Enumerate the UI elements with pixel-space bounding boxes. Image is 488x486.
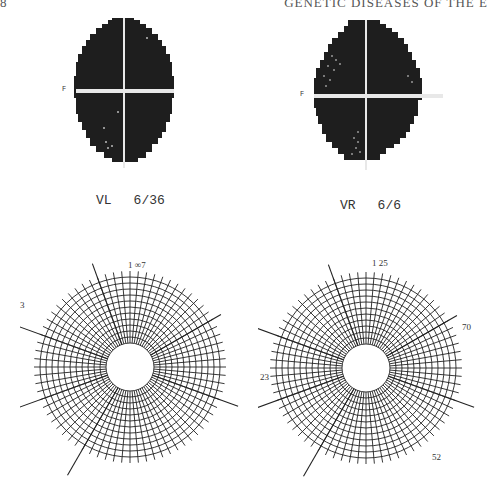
- svg-text:F: F: [300, 90, 304, 98]
- running-title: GENETIC DISEASES OF THE E: [284, 0, 488, 11]
- svg-text:F: F: [62, 85, 66, 93]
- right-polar-label-left: 23: [260, 372, 269, 382]
- left-polar-chart: [20, 255, 250, 485]
- left-eye-label: VL: [96, 193, 112, 208]
- left-polar-label-left: 3: [20, 300, 25, 310]
- left-polar-label-top: 1 ∞7: [128, 260, 146, 270]
- page-number: 8: [0, 0, 7, 11]
- right-acuity-value: 6/6: [378, 198, 401, 213]
- right-acuity-label: VR6/6: [340, 198, 423, 213]
- right-eye-label: VR: [340, 198, 356, 213]
- left-acuity-value: 6/36: [134, 193, 165, 208]
- right-polar-label-right: 70: [462, 322, 471, 332]
- right-polar-label-lower-right: 52: [432, 452, 441, 462]
- right-polar-label-top: 1 25: [372, 258, 388, 268]
- left-acuity-label: VL6/36: [96, 193, 187, 208]
- right-polar-chart: [258, 258, 488, 486]
- right-eye-field-plot: F: [298, 20, 443, 170]
- left-eye-field-plot: F: [58, 18, 188, 168]
